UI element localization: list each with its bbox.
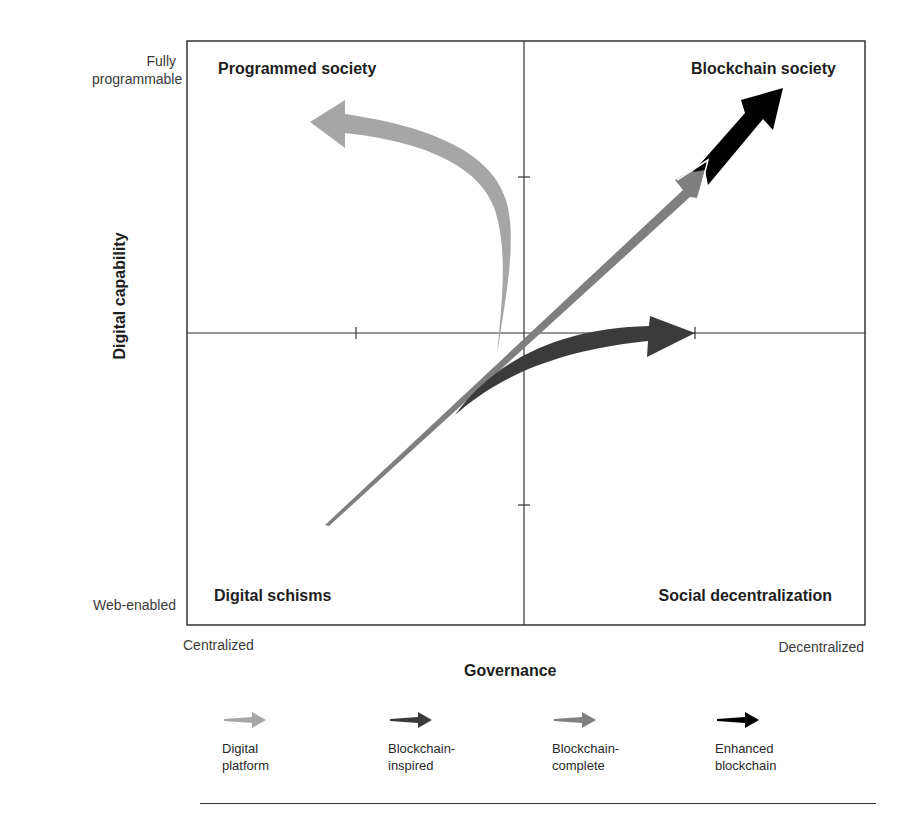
legend-label-line1: Blockchain- [552,740,619,757]
y-axis-max-label: Fully programmable [92,52,176,88]
arrow-right-icon [715,710,761,730]
legend-item-enhanced-blockchain: Enhanced blockchain [715,710,776,774]
legend-item-blockchain-complete: Blockchain- complete [552,710,619,774]
legend-label-line1: Digital [222,740,269,757]
legend-label-line2: blockchain [715,757,776,774]
x-axis-min-label: Centralized [183,636,254,654]
y-axis-max-line2: programmable [92,70,176,88]
quadrant-top-left-label: Programmed society [218,60,376,78]
enhanced-blockchain-arrow [693,88,783,185]
legend-label-line2: complete [552,757,619,774]
digital-platform-arrow [310,100,511,355]
arrow-right-icon [552,710,598,730]
arrow-right-icon [222,710,268,730]
quadrant-bottom-right-label: Social decentralization [618,587,832,605]
x-axis-title: Governance [464,662,556,680]
legend-item-blockchain-inspired: Blockchain- inspired [388,710,455,774]
quadrant-top-right-label: Blockchain society [661,60,836,78]
legend-label-line2: inspired [388,757,455,774]
x-axis-max-label: Decentralized [740,638,864,656]
legend-item-digital-platform: Digital platform [222,710,269,774]
y-axis-min-label: Web-enabled [60,596,176,614]
y-axis-title: Digital capability [111,232,129,359]
arrow-right-icon [388,710,434,730]
legend-label-line1: Blockchain- [388,740,455,757]
bottom-divider [200,803,876,804]
legend-label-line1: Enhanced [715,740,776,757]
y-axis-max-line1: Fully [92,52,176,70]
quadrant-bottom-left-label: Digital schisms [214,587,331,605]
blockchain-inspired-arrow [455,316,695,415]
legend: Digital platform Blockchain- inspired Bl… [0,710,913,800]
legend-label-line2: platform [222,757,269,774]
